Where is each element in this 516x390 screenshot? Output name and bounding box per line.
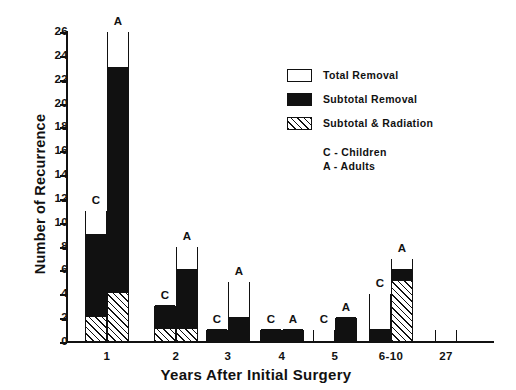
y-tick-label-2: 2 — [14, 311, 68, 323]
bar-segment-subtotal — [370, 329, 390, 341]
y-tick-label-22: 22 — [14, 73, 68, 85]
bar-segment-radiation — [177, 329, 197, 341]
y-tick-mark-12 — [60, 199, 67, 201]
bar-segment-total — [177, 246, 197, 270]
bar-tag-1-A: A — [98, 15, 138, 27]
bar-segment-subtotal — [261, 329, 281, 341]
bar-segment-total — [370, 293, 390, 329]
y-tick-label-24: 24 — [14, 49, 68, 61]
x-group-label-1: 1 — [104, 350, 111, 362]
bar-tag-6-10-A: A — [382, 242, 422, 254]
bar-segment-total — [86, 210, 106, 234]
x-axis-line — [66, 341, 494, 343]
y-tick-label-20: 20 — [14, 97, 68, 109]
bar-tag-5-A: A — [326, 301, 366, 313]
bar-segment-total — [436, 329, 456, 341]
x-axis-label: Years After Initial Surgery — [66, 366, 446, 383]
bar-segment-subtotal — [86, 234, 106, 317]
y-tick-mark-8 — [60, 247, 67, 249]
legend: Total Removal Subtotal Removal Subtotal … — [287, 68, 433, 140]
bar-1-C — [85, 211, 107, 342]
bar-5-A — [335, 318, 357, 342]
x-group-label-6-10: 6-10 — [379, 350, 404, 362]
legend-notes: C - Children A - Adults — [323, 145, 387, 173]
y-tick-mark-24 — [60, 56, 67, 58]
legend-item-subtotal-radiation: Subtotal & Radiation — [287, 116, 433, 130]
bar-segment-subtotal — [283, 329, 303, 341]
y-tick-label-0: 0 — [14, 335, 68, 347]
bar-tag-3-A: A — [219, 265, 259, 277]
bar-segment-subtotal — [336, 317, 356, 341]
bar-segment-radiation — [155, 329, 175, 341]
bar-segment-subtotal — [177, 269, 197, 329]
x-group-label-27: 27 — [439, 350, 453, 362]
bar-2-C — [154, 306, 176, 342]
bar-segment-total — [108, 31, 128, 67]
y-tick-mark-26 — [60, 32, 67, 34]
bar-2-A — [176, 247, 198, 342]
bar-segment-total — [392, 258, 412, 270]
legend-item-total-removal: Total Removal — [287, 68, 433, 82]
legend-label-subtotal-radiation: Subtotal & Radiation — [323, 117, 433, 129]
bar-segment-total — [229, 281, 249, 317]
x-group-label-5: 5 — [332, 350, 339, 362]
y-tick-mark-22 — [60, 80, 67, 82]
y-tick-label-6: 6 — [14, 263, 68, 275]
legend-swatch-subtotal-removal — [287, 93, 312, 106]
y-tick-label-8: 8 — [14, 240, 68, 252]
y-tick-mark-20 — [60, 104, 67, 106]
bar-segment-subtotal — [229, 317, 249, 341]
bar-segment-radiation — [108, 293, 128, 341]
bar-segment-subtotal — [155, 305, 175, 329]
y-tick-label-18: 18 — [14, 120, 68, 132]
bar-segment-radiation — [86, 317, 106, 341]
y-tick-mark-4 — [60, 294, 67, 296]
legend-swatch-total-removal — [287, 69, 312, 82]
recurrence-bar-chart: Number of Recurrence 0246810121416182022… — [0, 0, 516, 390]
y-tick-label-10: 10 — [14, 216, 68, 228]
y-tick-mark-10 — [60, 223, 67, 225]
y-tick-label-14: 14 — [14, 168, 68, 180]
bar-1-A — [107, 32, 129, 342]
bar-3-A — [228, 282, 250, 342]
bar-6-10-A — [391, 259, 413, 342]
bar-segment-subtotal — [392, 269, 412, 281]
y-tick-label-16: 16 — [14, 144, 68, 156]
y-tick-label-4: 4 — [14, 287, 68, 299]
bar-segment-subtotal — [207, 329, 227, 341]
legend-label-total-removal: Total Removal — [323, 69, 399, 81]
y-tick-label-12: 12 — [14, 192, 68, 204]
bar-segment-radiation — [392, 281, 412, 341]
legend-note-adults: A - Adults — [323, 159, 387, 173]
bar-6-10-C — [369, 294, 391, 342]
y-tick-label-26: 26 — [14, 25, 68, 37]
bar-segment-subtotal — [108, 67, 128, 294]
y-tick-mark-18 — [60, 127, 67, 129]
x-group-label-2: 2 — [173, 350, 180, 362]
y-tick-mark-6 — [60, 270, 67, 272]
x-group-label-3: 3 — [225, 350, 232, 362]
y-tick-mark-16 — [60, 151, 67, 153]
bar-segment-total — [314, 329, 334, 341]
y-tick-mark-14 — [60, 175, 67, 177]
legend-note-children: C - Children — [323, 145, 387, 159]
bar-tag-2-A: A — [167, 230, 207, 242]
legend-label-subtotal-removal: Subtotal Removal — [323, 93, 417, 105]
x-group-label-4: 4 — [279, 350, 286, 362]
legend-swatch-subtotal-radiation — [287, 117, 312, 130]
y-tick-mark-2 — [60, 318, 67, 320]
legend-item-subtotal-removal: Subtotal Removal — [287, 92, 433, 106]
